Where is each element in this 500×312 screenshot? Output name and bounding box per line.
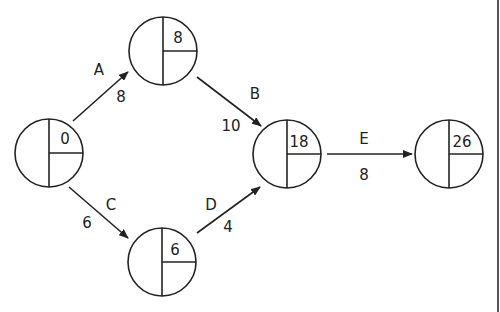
event-node-3 (128, 228, 196, 296)
node-2-earliest-time: 8 (173, 31, 183, 46)
activity-a-label: A (94, 63, 104, 78)
activity-e-label: E (359, 132, 368, 147)
activity-c-label: C (106, 198, 116, 213)
node-3-earliest-time: 6 (170, 243, 180, 258)
activity-d-label: D (205, 198, 217, 213)
event-node-4 (253, 120, 321, 188)
diagram-canvas (0, 0, 500, 312)
page-right-border (497, 0, 499, 312)
activity-e-duration: 8 (359, 168, 369, 183)
activity-c-duration: 6 (82, 216, 92, 231)
activity-a-duration: 8 (116, 90, 126, 105)
node-5-earliest-time: 26 (452, 135, 471, 150)
arrow-activity-c (69, 187, 128, 238)
network-diagram: 0 8 6 18 26 A 8 B 10 C 6 D 4 E 8 (0, 0, 500, 312)
activity-b-duration: 10 (221, 119, 240, 134)
event-node-1 (15, 119, 83, 187)
activity-b-label: B (250, 87, 260, 102)
event-node-5 (415, 120, 483, 188)
event-node-2 (129, 17, 197, 85)
node-1-earliest-time: 0 (60, 132, 70, 147)
activity-d-duration: 4 (223, 220, 233, 235)
node-4-earliest-time: 18 (289, 135, 308, 150)
